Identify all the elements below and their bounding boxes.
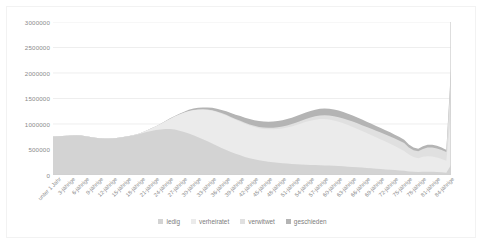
legend-item-geschieden[interactable]: geschieden — [286, 218, 327, 225]
y-axis-label: 1000000 — [2, 121, 50, 128]
y-axis-label: 2000000 — [2, 70, 50, 77]
y-axis: 0500000100000015000002000000250000030000… — [0, 22, 50, 175]
legend-label: verwitwet — [248, 218, 275, 225]
legend-item-ledig[interactable]: ledig — [158, 218, 180, 225]
y-axis-label: 1500000 — [2, 95, 50, 102]
plot-area — [53, 22, 451, 175]
x-axis: unter 1 Jahr3-jährige6-jährige9-jährige1… — [53, 176, 451, 220]
legend-swatch-icon — [240, 219, 245, 224]
legend-item-verheiratet[interactable]: verheiratet — [191, 218, 229, 225]
legend-label: ledig — [166, 218, 180, 225]
chart-legend: ledigverheiratetverwitwetgeschieden — [0, 218, 485, 225]
legend-label: geschieden — [294, 218, 327, 225]
chart-container: 0500000100000015000002000000250000030000… — [0, 0, 485, 252]
legend-swatch-icon — [286, 219, 291, 224]
y-axis-label: 500000 — [2, 146, 50, 153]
stacked-area-plot — [53, 22, 451, 175]
y-axis-label: 3000000 — [2, 19, 50, 26]
legend-item-verwitwet[interactable]: verwitwet — [240, 218, 275, 225]
y-axis-label: 2500000 — [2, 44, 50, 51]
legend-label: verheiratet — [199, 218, 229, 225]
y-axis-label: 0 — [2, 172, 50, 179]
legend-swatch-icon — [158, 219, 163, 224]
legend-swatch-icon — [191, 219, 196, 224]
area-series-group — [53, 68, 451, 175]
